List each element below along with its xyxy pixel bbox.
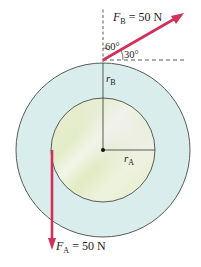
force-a-label: FA = 50 N bbox=[55, 239, 106, 255]
angle-30-label: 30° bbox=[124, 49, 139, 60]
force-b-label: FB = 50 N bbox=[112, 10, 162, 26]
angle-arc-30 bbox=[121, 50, 123, 60]
wheel-force-diagram: FB = 50 N 60° 30° rB rA FA = 50 N bbox=[0, 0, 201, 267]
center-point bbox=[101, 148, 105, 152]
angle-60-label: 60° bbox=[105, 41, 120, 52]
